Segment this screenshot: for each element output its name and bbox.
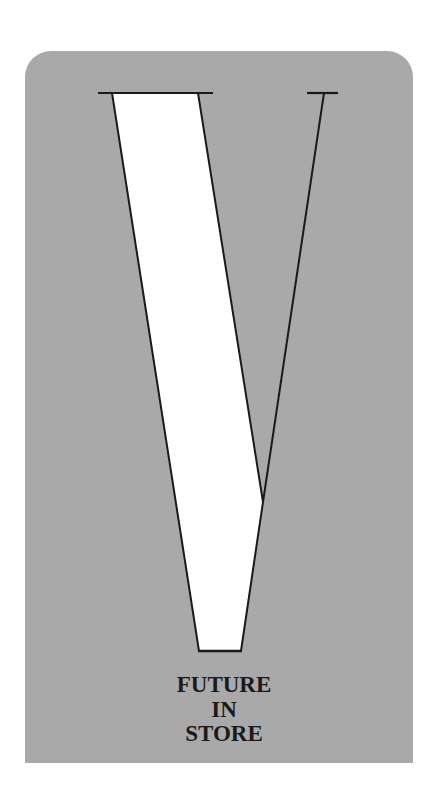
caption-line-2: IN <box>124 698 324 723</box>
v-thick-stroke <box>112 93 263 651</box>
caption-line-1: FUTURE <box>124 673 324 698</box>
caption-line-3: STORE <box>124 722 324 747</box>
poster-caption: FUTURE IN STORE <box>124 673 324 747</box>
v-thin-stroke <box>263 93 324 502</box>
